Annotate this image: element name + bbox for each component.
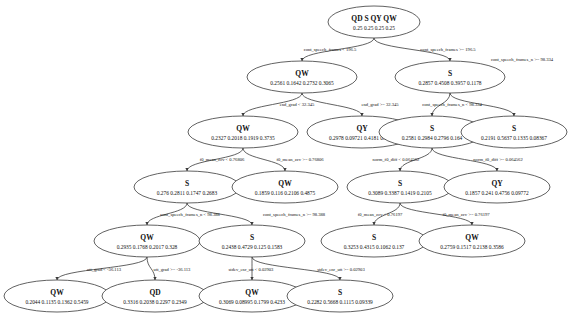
node-class-distribution: 0.3089 0.3387 0.1419 0.2105 [368,190,432,196]
node-class-label: S [398,179,402,188]
node-class-label: S [372,233,376,242]
tree-node[interactable]: S0.3253 0.4315 0.1062 0.137 [321,225,427,257]
tree-node[interactable]: QW0.2044 0.1135 0.1362 0.5459 [4,280,110,312]
node-class-distribution: 0.276 0.2811 0.1747 0.2683 [157,190,218,196]
tree-node[interactable]: QW0.1859 0.116 0.2106 0.4875 [232,171,338,203]
node-class-label: S [185,179,189,188]
node-class-label: QD [149,288,161,297]
node-class-distribution: 0.2935 0.1768 0.2017 0.328 [117,244,178,250]
node-class-distribution: 0.2282 0.5668 0.1115 0.09339 [307,299,373,305]
tree-node[interactable]: QW0.2759 0.1517 0.2138 0.3586 [419,225,525,257]
node-class-distribution: 0.3069 0.08995 0.1799 0.4233 [219,299,285,305]
edge-label: stdev_enr_utt < 0.02903 [229,267,275,272]
decision-tree-diagram: cont_speech_frames < 196.5cont_speech_fr… [0,0,570,324]
node-class-distribution: 0.1859 0.116 0.2106 0.4875 [255,190,316,196]
edge-label: f0_mean_zcv >= 0.76806 [276,157,324,162]
node-class-distribution: 0.2759 0.1517 0.2138 0.3586 [440,244,504,250]
node-class-label: QW [245,288,259,297]
edge-label: cont_speech_frames_n < 98.334 [422,102,482,107]
tree-node[interactable]: S0.2857 0.4508 0.3957 0.1178 [395,61,505,93]
node-class-label: QW [295,69,309,78]
edge-label: utt_grad >= -36.113 [154,267,191,272]
edge-label: norm_f0_diff < 0.064562 [373,157,420,162]
node-class-label: QW [278,179,292,188]
node-class-distribution: 0.2438 0.4729 0.125 0.1583 [222,244,283,250]
tree-node[interactable]: QY0.1857 0.241 0.4756 0.09772 [444,171,550,203]
edge-label: cont_speech_frames_n >= 98.388 [263,212,326,217]
node-class-label: QW [465,233,479,242]
node-class-distribution: 0.2561 0.1642 0.2732 0.3065 [270,80,334,86]
node-class-label: S [512,124,516,133]
edge-label: cont_speech_frames_n < 98.388 [160,212,220,217]
node-class-distribution: 0.25 0.25 0.25 0.25 [353,25,395,31]
tree-node[interactable]: S0.2438 0.4729 0.125 0.1583 [199,225,305,257]
node-class-distribution: 0.1857 0.241 0.4756 0.09772 [465,190,529,196]
node-class-label: QY [491,179,503,188]
edge-label: norm_f0_diff >= 0.064562 [473,157,523,162]
edge-label: end_grad < 32.345 [280,102,315,107]
node-class-distribution: 0.2044 0.1135 0.1362 0.5459 [25,299,88,305]
node-class-label: QW [140,233,154,242]
node-class-distribution: 0.3316 0.2038 0.2297 0.2349 [123,299,187,305]
tree-node[interactable]: S0.276 0.2811 0.1747 0.2683 [134,171,240,203]
edge-label: cont_speech_frames_n >= 98.334 [491,57,554,62]
edge-label: f0_mean_zcv < 0.76197 [358,212,403,217]
tree-node[interactable]: QD0.3316 0.2038 0.2297 0.2349 [102,280,208,312]
node-class-label: S [448,69,452,78]
node-class-distribution: 0.2857 0.4508 0.3957 0.1178 [418,80,481,86]
node-class-label: QW [236,124,250,133]
tree-node[interactable]: QW0.2935 0.1768 0.2017 0.328 [94,225,200,257]
tree-node[interactable]: S0.2191 0.5637 0.1335 0.08367 [461,116,567,148]
node-class-distribution: 0.2327 0.2018 0.1919 0.3735 [211,135,275,141]
node-class-distribution: 0.3253 0.4315 0.1062 0.137 [344,244,405,250]
node-class-label: QD S QY QW [351,14,397,23]
node-class-distribution: 0.2191 0.5637 0.1335 0.08367 [481,135,547,141]
edge-label: cont_speech_frames >= 196.5 [420,47,476,52]
node-class-label: S [338,288,342,297]
node-class-label: S [430,124,434,133]
tree-node[interactable]: S0.2282 0.5668 0.1115 0.09339 [287,280,393,312]
tree-node[interactable]: QD S QY QW0.25 0.25 0.25 0.25 [328,6,420,38]
edge-label: end_grad >= 32.345 [361,102,399,107]
edge-label: f0_mean_zcv >= 0.76197 [442,212,490,217]
tree-node[interactable]: QW0.2327 0.2018 0.1919 0.3735 [188,116,298,148]
edge-label: f0_mean_zcv < 0.76806 [200,157,245,162]
tree-node[interactable]: QW0.2561 0.1642 0.2732 0.3065 [247,61,357,93]
node-class-label: S [250,233,254,242]
edge-label: utt_grad < -36.113 [87,267,122,272]
edge-label: cont_speech_frames < 196.5 [304,47,357,52]
node-class-label: QY [356,124,368,133]
node-class-label: QW [50,288,64,297]
edge-label: stdev_enr_utt >= 0.02903 [317,267,365,272]
tree-node[interactable]: S0.3089 0.3387 0.1419 0.2105 [347,171,453,203]
node-class-distribution: 0.2581 0.2984 0.2796 0.164 [402,135,463,141]
